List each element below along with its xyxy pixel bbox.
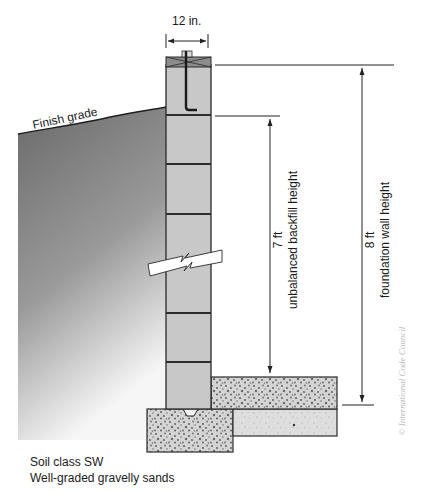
soil-class: Soil class SW	[30, 454, 175, 470]
diagram-drawing	[0, 0, 424, 492]
floor-slab	[211, 377, 337, 409]
copyright-credit: © International Code Council	[397, 321, 407, 441]
backfill-height-label: 7 ft unbalanced backfill height	[271, 140, 301, 340]
wall-height-label: 8 ft foundation wall height	[363, 140, 393, 340]
backfill-height-caption: unbalanced backfill height	[286, 140, 301, 340]
soil-note: Soil class SW Well-graded gravelly sands	[30, 454, 175, 486]
wall-width-label: 12 in.	[172, 14, 201, 28]
slab-base	[233, 409, 337, 436]
backfill-soil	[18, 107, 166, 440]
backfill-height-value: 7 ft	[271, 140, 286, 340]
masonry-wall	[166, 65, 211, 409]
foundation-wall-diagram: 12 in. Finish grade 7 ft unbalanced back…	[0, 0, 424, 492]
soil-description: Well-graded gravelly sands	[30, 470, 175, 486]
wall-height-caption: foundation wall height	[378, 140, 393, 340]
wall-height-value: 8 ft	[363, 140, 378, 340]
